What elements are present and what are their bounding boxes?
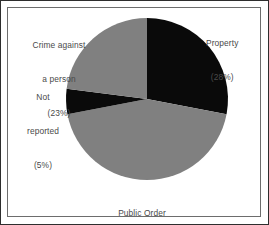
pie-chart-figure: Property (28%) Crime against a person (2… bbox=[0, 0, 269, 225]
pie-label-not-reported-name-line2: reported bbox=[12, 126, 74, 137]
pie-label-property-percent: (28%) bbox=[206, 72, 238, 83]
pie-label-property: Property (28%) bbox=[206, 16, 238, 106]
pie-label-not-reported: Not reported (5%) bbox=[12, 70, 74, 193]
pie-label-crime-against-person-name-line1: Crime against bbox=[15, 40, 103, 51]
pie-label-not-reported-percent: (5%) bbox=[12, 160, 74, 171]
pie-label-property-name: Property bbox=[206, 38, 238, 49]
pie-label-public-order: Public Order (44%) bbox=[97, 186, 187, 225]
pie-label-not-reported-name-line1: Not bbox=[12, 92, 74, 103]
pie-label-public-order-name: Public Order bbox=[97, 208, 187, 219]
